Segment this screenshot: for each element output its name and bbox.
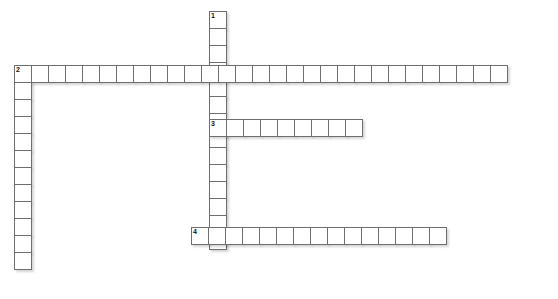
crossword-cell[interactable] [277,119,295,137]
crossword-cell-letter [15,100,31,116]
crossword-cell[interactable] [31,65,49,83]
crossword-cell[interactable] [242,227,260,245]
crossword-cell[interactable] [218,65,236,83]
crossword-cell[interactable] [388,65,406,83]
crossword-cell[interactable] [14,201,32,219]
crossword-cell[interactable] [209,198,227,216]
crossword-cell[interactable] [320,65,338,83]
crossword-cell[interactable] [209,28,227,46]
crossword-cell[interactable] [48,65,66,83]
crossword-cell[interactable] [276,227,294,245]
crossword-cell[interactable] [191,227,209,245]
crossword-cell[interactable] [209,11,227,29]
crossword-cell[interactable] [422,65,440,83]
crossword-cell[interactable] [259,227,277,245]
crossword-cell-letter [345,228,361,244]
crossword-cell[interactable] [209,164,227,182]
crossword-cell[interactable] [354,65,372,83]
crossword-cell[interactable] [14,218,32,236]
crossword-cell[interactable] [14,133,32,151]
crossword-cell[interactable] [303,65,321,83]
crossword-cell[interactable] [345,119,363,137]
crossword-cell[interactable] [116,65,134,83]
crossword-cell[interactable] [378,227,396,245]
crossword-cell[interactable] [286,65,304,83]
crossword-cell[interactable] [201,65,219,83]
crossword-cell[interactable] [269,65,287,83]
crossword-cell[interactable] [167,65,185,83]
crossword-cell[interactable] [82,65,100,83]
crossword-cell[interactable] [14,116,32,134]
crossword-cell[interactable] [456,65,474,83]
crossword-cell-letter [151,66,167,82]
crossword-cell-letter [260,228,276,244]
crossword-cell[interactable] [226,119,244,137]
crossword-cell-letter [346,120,362,136]
crossword-cell[interactable] [14,184,32,202]
crossword-cell-letter [15,117,31,133]
crossword-cell[interactable] [405,65,423,83]
crossword-cell-letter [304,66,320,82]
crossword-cell[interactable] [327,227,345,245]
crossword-cell[interactable] [328,119,346,137]
crossword-grid[interactable]: 1234 [0,0,558,299]
crossword-cell-letter [389,66,405,82]
crossword-cell[interactable] [209,119,227,137]
crossword-cell-letter [287,66,303,82]
crossword-cell-letter [49,66,65,82]
crossword-cell[interactable] [490,65,508,83]
crossword-cell[interactable] [294,119,312,137]
crossword-cell-letter [15,151,31,167]
crossword-cell[interactable] [225,227,243,245]
crossword-cell[interactable] [14,235,32,253]
crossword-cell[interactable] [99,65,117,83]
crossword-cell[interactable] [311,119,329,137]
crossword-cell[interactable] [412,227,430,245]
crossword-cell-letter [185,66,201,82]
crossword-cell-letter [278,120,294,136]
crossword-cell[interactable] [209,45,227,63]
crossword-cell-letter [15,219,31,235]
crossword-cell[interactable] [337,65,355,83]
crossword-cell[interactable] [208,227,226,245]
crossword-cell[interactable] [293,227,311,245]
crossword-cell[interactable] [260,119,278,137]
crossword-cell[interactable] [429,227,447,245]
crossword-cell[interactable] [14,65,32,83]
crossword-cell-letter [270,66,286,82]
crossword-cell-letter [295,120,311,136]
crossword-cell-letter [210,46,226,62]
crossword-cell-letter [294,228,310,244]
crossword-cell[interactable] [361,227,379,245]
crossword-cell-letter [226,228,242,244]
crossword-cell-letter [192,228,208,244]
crossword-cell[interactable] [14,252,32,270]
crossword-cell-letter [329,120,345,136]
crossword-cell[interactable] [439,65,457,83]
crossword-cell[interactable] [473,65,491,83]
crossword-cell[interactable] [133,65,151,83]
crossword-cell[interactable] [371,65,389,83]
crossword-cell-letter [355,66,371,82]
crossword-cell[interactable] [209,147,227,165]
crossword-cell[interactable] [150,65,168,83]
crossword-cell[interactable] [209,96,227,114]
crossword-cell[interactable] [184,65,202,83]
crossword-cell[interactable] [395,227,413,245]
crossword-cell[interactable] [310,227,328,245]
crossword-cell[interactable] [235,65,253,83]
crossword-cell[interactable] [65,65,83,83]
crossword-cell-letter [100,66,116,82]
crossword-cell[interactable] [14,82,32,100]
crossword-cell[interactable] [14,167,32,185]
crossword-cell[interactable] [14,150,32,168]
crossword-cell[interactable] [243,119,261,137]
crossword-cell-letter [430,228,446,244]
crossword-cell-letter [261,120,277,136]
crossword-cell[interactable] [344,227,362,245]
crossword-cell[interactable] [209,181,227,199]
crossword-cell[interactable] [252,65,270,83]
crossword-cell-letter [457,66,473,82]
crossword-cell[interactable] [14,99,32,117]
crossword-cell-letter [440,66,456,82]
